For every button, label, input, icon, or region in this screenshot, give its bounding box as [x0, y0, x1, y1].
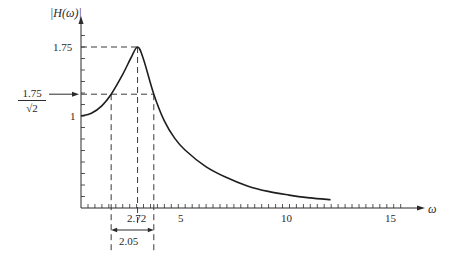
bandwidth-right-arrowhead [148, 228, 154, 233]
x-axis-arrowhead [417, 206, 425, 211]
x-tick-label-10: 10 [281, 213, 292, 224]
axes [79, 16, 426, 211]
x-tick-label-5: 5 [178, 213, 184, 224]
half-power-pointer-arrowhead [72, 92, 79, 97]
y-tick-label-one: 1 [70, 111, 76, 122]
x-tick-label-peak-omega: 2.72 [127, 213, 146, 224]
bandwidth-label: 2.05 [119, 236, 138, 247]
y-tick-label-peak: 1.75 [53, 42, 72, 53]
bandwidth-left-arrowhead [111, 228, 117, 233]
half-power-denominator: √2 [18, 101, 46, 114]
half-power-numerator: 1.75 [18, 87, 46, 101]
x-axis-label: ω [428, 203, 436, 215]
half-power-label: 1.75 √2 [18, 87, 46, 114]
y-axis-label: |H(ω)| [50, 7, 82, 19]
x-tick-label-15: 15 [385, 213, 396, 224]
magnitude-curve [81, 47, 331, 200]
